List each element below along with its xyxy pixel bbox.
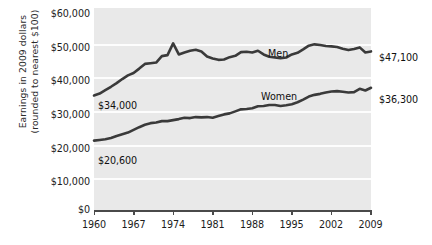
y-tick-label: $10,000 [28, 176, 90, 187]
x-tick-mark [252, 210, 253, 215]
men-end-value-label: $47,100 [379, 52, 418, 63]
x-tick-mark [291, 210, 292, 215]
y-axis-tick-labels: $60,000 $50,000 $40,000 $30,000 $20,000 … [24, 0, 90, 245]
women-line [94, 88, 371, 141]
x-tick-mark [173, 210, 174, 215]
x-tick-mark [370, 210, 371, 215]
x-tick-label: 1995 [269, 219, 313, 230]
women-series-label: Women [261, 91, 297, 102]
women-start-value-label: $20,600 [98, 155, 137, 166]
x-tick-mark [94, 210, 95, 215]
men-line [94, 43, 371, 95]
x-tick-label: 1988 [230, 219, 274, 230]
women-end-value-label: $36,300 [379, 94, 418, 105]
y-tick-label: $50,000 [28, 42, 90, 53]
earnings-line-chart: Earnings in 2009 dollars (rounded to nea… [0, 0, 432, 245]
y-tick-label: $60,000 [28, 8, 90, 19]
x-tick-mark [133, 210, 134, 215]
y-tick-label: $0 [28, 204, 90, 215]
x-tick-mark [331, 210, 332, 215]
y-tick-label: $40,000 [28, 75, 90, 86]
men-series-label: Men [268, 48, 288, 59]
x-tick-label: 1974 [151, 219, 195, 230]
x-tick-mark [212, 210, 213, 215]
x-tick-label: 1960 [72, 219, 116, 230]
x-tick-label: 2009 [348, 219, 392, 230]
plot-area: Men Women $34,000 $20,600 [94, 8, 371, 210]
x-tick-label: 2002 [309, 219, 353, 230]
x-tick-label: 1967 [111, 219, 155, 230]
men-start-value-label: $34,000 [98, 100, 137, 111]
y-tick-label: $30,000 [28, 109, 90, 120]
y-tick-label: $20,000 [28, 143, 90, 154]
x-tick-label: 1981 [190, 219, 234, 230]
